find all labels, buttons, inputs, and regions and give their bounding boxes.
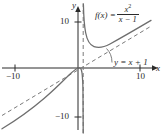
function-fraction: x2x − 1 bbox=[117, 5, 139, 25]
x-tick-label-10: 10 bbox=[136, 72, 145, 81]
x-axis-label: x bbox=[156, 64, 160, 73]
function-denominator: x − 1 bbox=[117, 14, 139, 25]
function-denominator-text: x − 1 bbox=[119, 14, 137, 24]
slant-asymptote-text: y = x + 1 bbox=[114, 57, 148, 67]
function-equation-label: f(x) =x2x − 1 bbox=[95, 5, 140, 25]
y-axis-label: y bbox=[72, 1, 76, 10]
y-tick-label-minus-10: −10 bbox=[55, 112, 69, 121]
x-tick-label-minus-10: −10 bbox=[6, 72, 20, 81]
slant-asymptote-line bbox=[2, 26, 151, 115]
slant-asymptote-label: y = x + 1 bbox=[114, 58, 148, 67]
figure-rational-function-graph: y x 10 −10 −10 10 f(x) =x2x − 1 y = x + … bbox=[0, 0, 163, 136]
function-equation-prefix: f(x) = bbox=[95, 10, 116, 20]
function-numerator-exponent: 2 bbox=[128, 3, 131, 9]
y-tick-label-10: 10 bbox=[60, 17, 69, 26]
function-numerator: x2 bbox=[117, 5, 139, 14]
